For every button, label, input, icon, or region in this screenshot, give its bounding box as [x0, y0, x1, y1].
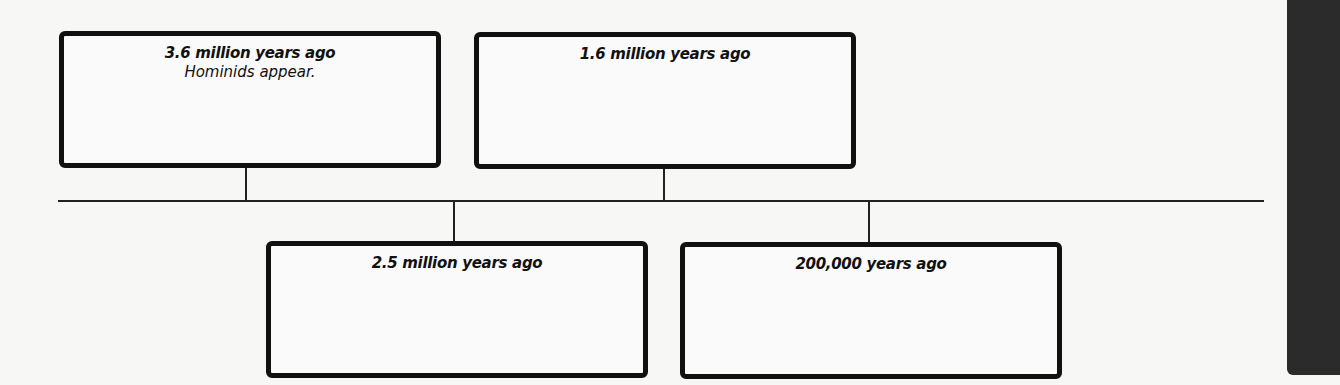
timeline-axis — [58, 200, 1264, 202]
event-date: 3.6 million years ago — [64, 44, 436, 62]
event-date: 1.6 million years ago — [479, 45, 851, 63]
event-date: 200,000 years ago — [685, 255, 1057, 273]
connector-event-3 — [663, 168, 665, 201]
event-box-3: 1.6 million years ago — [474, 32, 856, 169]
connector-event-4 — [868, 201, 870, 243]
event-description: Hominids appear. — [64, 63, 436, 81]
event-box-1: 3.6 million years ago Hominids appear. — [59, 31, 441, 168]
page-edge-tab — [1287, 0, 1340, 375]
event-date: 2.5 million years ago — [271, 254, 643, 272]
connector-event-2 — [453, 201, 455, 242]
event-box-2: 2.5 million years ago — [266, 241, 648, 378]
connector-event-1 — [245, 167, 247, 201]
event-box-4: 200,000 years ago — [680, 242, 1062, 379]
